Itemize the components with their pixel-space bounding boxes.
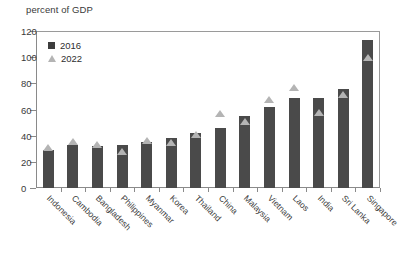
marker-korea-2022 xyxy=(166,139,176,146)
x-axis-tick xyxy=(85,188,86,192)
y-axis-label: 100 xyxy=(21,52,24,63)
chart-axis-title: percent of GDP xyxy=(26,4,93,15)
marker-china-2022 xyxy=(215,110,225,117)
marker-india-2022 xyxy=(314,109,324,116)
x-axis-tick xyxy=(159,188,160,192)
marker-singapore-2022 xyxy=(363,54,373,61)
x-axis-tick xyxy=(110,188,111,192)
x-axis-label-india: India xyxy=(315,193,335,213)
x-axis-tick xyxy=(134,188,135,192)
x-axis-tick xyxy=(233,188,234,192)
y-axis-label: 40 xyxy=(21,130,24,141)
legend-item-2016: 2016 xyxy=(48,39,82,51)
y-axis-label: 20 xyxy=(21,156,24,167)
x-axis-tick xyxy=(183,188,184,192)
marker-cambodia-2022 xyxy=(68,138,78,145)
triangle-marker-icon xyxy=(48,55,56,62)
bar-sri-lanka-2016 xyxy=(338,89,349,188)
bar-china-2016 xyxy=(215,128,226,188)
x-axis-tick xyxy=(208,188,209,192)
bar-malaysia-2016 xyxy=(239,116,250,188)
marker-thailand-2022 xyxy=(191,131,201,138)
bar-laos-2016 xyxy=(289,98,300,188)
bar-singapore-2016 xyxy=(362,40,373,188)
y-axis-label: 60 xyxy=(21,104,24,115)
x-axis-tick xyxy=(331,188,332,192)
x-axis-tick xyxy=(61,188,62,192)
x-axis-tick xyxy=(282,188,283,192)
marker-philippines-2022 xyxy=(117,148,127,155)
x-axis-tick xyxy=(306,188,307,192)
marker-myanmar-2022 xyxy=(142,137,152,144)
plot-area: 020406080100120 xyxy=(36,31,380,188)
bar-vietnam-2016 xyxy=(264,107,275,188)
y-axis-label: 0 xyxy=(21,183,24,194)
x-axis-tick xyxy=(380,188,381,192)
x-axis-tick xyxy=(257,188,258,192)
bar-myanmar-2016 xyxy=(141,142,152,188)
bar-indonesia-2016 xyxy=(43,150,54,188)
bar-cambodia-2016 xyxy=(67,145,78,188)
marker-laos-2022 xyxy=(289,84,299,91)
y-axis-label: 120 xyxy=(21,26,24,37)
marker-vietnam-2022 xyxy=(264,96,274,103)
chart-legend: 2016 2022 xyxy=(48,39,82,65)
legend-label-2016: 2016 xyxy=(60,40,81,51)
marker-sri-lanka-2022 xyxy=(338,91,348,98)
plot-border-top xyxy=(36,31,380,32)
marker-malaysia-2022 xyxy=(240,118,250,125)
legend-label-2022: 2022 xyxy=(61,53,82,64)
plot-border-right xyxy=(379,31,380,188)
legend-item-2022: 2022 xyxy=(48,52,82,64)
x-axis-tick xyxy=(355,188,356,192)
x-axis-label-singapore: Singapore xyxy=(365,193,399,228)
x-axis-label-china: China xyxy=(217,193,240,216)
marker-bangladesh-2022 xyxy=(92,141,102,148)
y-axis-label: 80 xyxy=(21,78,24,89)
y-axis-tick xyxy=(30,188,36,189)
marker-indonesia-2022 xyxy=(43,144,53,151)
square-marker-icon xyxy=(48,42,55,49)
x-axis-label-laos: Laos xyxy=(291,193,311,213)
bar-thailand-2016 xyxy=(190,133,201,188)
bar-bangladesh-2016 xyxy=(92,146,103,188)
